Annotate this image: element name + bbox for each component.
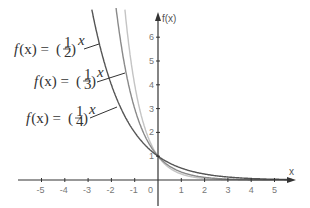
x-tick-label: 1 <box>179 185 184 195</box>
label-third: f(x) = ( 1 3 ) x <box>34 64 125 92</box>
y-tick-label: 5 <box>149 56 154 66</box>
function-labels: f(x) = ( 1 2 ) x f(x) = ( 1 3 ) x f(x) =… <box>14 32 125 129</box>
label-quarter-prefix: f(x) = <box>26 110 61 127</box>
x-tick-label: 2 <box>202 185 207 195</box>
y-tick-label: 4 <box>149 80 154 90</box>
x-tick-label: 3 <box>225 185 230 195</box>
label-half-prefix: f(x) = <box>14 41 49 58</box>
x-tick-label: -1 <box>130 185 138 195</box>
y-tick-label: 2 <box>149 127 154 137</box>
function-curves <box>92 8 293 180</box>
label-quarter-paren: ( <box>68 110 73 127</box>
label-third-prefix: f(x) = <box>34 73 69 90</box>
label-half-exp: x <box>77 32 85 48</box>
x-tick-label: -5 <box>37 185 45 195</box>
label-third-exp: x <box>96 64 104 80</box>
label-third-paren: ( <box>76 73 81 90</box>
label-half-paren-close: ) <box>71 41 76 58</box>
x-tick-label: 5 <box>272 185 277 195</box>
y-tick-label: 1 <box>149 151 154 161</box>
x-tick-label: -3 <box>83 185 91 195</box>
label-quarter-exp: x <box>88 101 96 117</box>
x-axis-arrow-icon <box>287 177 296 183</box>
curve-2 <box>92 10 293 180</box>
label-half-pointer <box>84 44 99 49</box>
x-axis-title: x <box>289 166 294 177</box>
y-axis-title: f(x) <box>162 13 176 24</box>
x-tick-label: 4 <box>249 185 254 195</box>
label-quarter: f(x) = ( 1 4 ) x <box>26 101 117 129</box>
x-tick-label: -4 <box>60 185 68 195</box>
y-tick-label: 3 <box>149 104 154 114</box>
y-tick-label: 6 <box>149 32 154 42</box>
y-axis-arrow-icon <box>155 12 161 21</box>
label-half: f(x) = ( 1 2 ) x <box>14 32 99 60</box>
label-third-paren-close: ) <box>91 73 96 90</box>
x-tick-label: -2 <box>106 185 114 195</box>
curve-3 <box>116 8 293 180</box>
label-quarter-paren-close: ) <box>83 110 88 127</box>
label-half-paren: ( <box>56 41 61 58</box>
exponential-functions-chart: -5-4-3-2-112345 123456 x f(x) 0 f(x) = (… <box>0 0 310 208</box>
origin-label: 0 <box>148 185 153 195</box>
